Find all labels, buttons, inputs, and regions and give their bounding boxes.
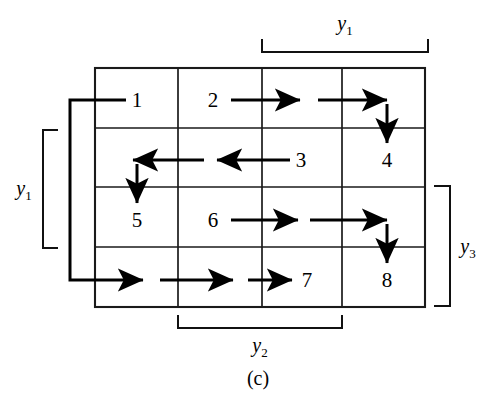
bracket-left-y1 — [43, 130, 58, 248]
cell-label-4: 4 — [382, 148, 393, 172]
bracket-top-y1 — [262, 39, 428, 52]
cell-label-5: 5 — [132, 208, 143, 232]
cell-label-6: 6 — [208, 208, 219, 232]
cell-label-3: 3 — [296, 148, 307, 172]
cell-label-2: 2 — [208, 88, 219, 112]
figure-caption: (c) — [247, 367, 269, 390]
bracket-label-bottom-base: y — [250, 334, 261, 357]
bracket-label-top-y1: y1 — [335, 12, 352, 38]
bracket-label-right-y3: y3 — [458, 235, 475, 261]
figure-container: 1 2 3 4 5 6 7 8 y1 y1 y3 y2 (c) — [0, 0, 495, 400]
bracket-label-left-base: y — [14, 177, 25, 200]
cell-label-7: 7 — [302, 268, 313, 292]
bracket-label-top-sub: 1 — [346, 23, 353, 38]
bracket-label-left-sub: 1 — [25, 188, 32, 203]
bracket-label-bottom-sub: 2 — [261, 345, 268, 360]
bracket-label-right-base: y — [458, 235, 469, 258]
cell-label-8: 8 — [382, 268, 393, 292]
cell-label-1: 1 — [132, 88, 143, 112]
bracket-right-y3 — [434, 186, 450, 306]
bracket-label-bottom-y2: y2 — [250, 334, 267, 360]
feedback-path — [70, 100, 126, 280]
bracket-bottom-y2 — [178, 315, 342, 328]
systolic-array-diagram: 1 2 3 4 5 6 7 8 y1 y1 y3 y2 (c) — [0, 0, 495, 400]
feedback-loop-left — [70, 100, 126, 280]
grid — [95, 68, 425, 307]
bracket-label-left-y1: y1 — [14, 177, 31, 203]
bracket-label-top-base: y — [335, 12, 346, 35]
bracket-label-right-sub: 3 — [469, 246, 476, 261]
